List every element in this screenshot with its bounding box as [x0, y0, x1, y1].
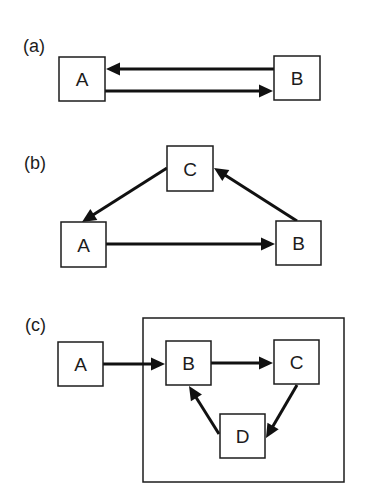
panel-c: (c) ABCD [25, 315, 344, 482]
node-b: B [276, 221, 321, 265]
edge-line [224, 174, 297, 221]
arrowhead-icon [259, 357, 273, 370]
edge-a-to-b [105, 85, 273, 98]
node-label: A [77, 235, 90, 256]
node-label: B [292, 233, 305, 254]
node-label: B [291, 68, 304, 89]
edge-b-to-c [214, 168, 297, 221]
edge-line [92, 168, 167, 216]
arrowhead-icon [261, 238, 275, 251]
node-label: A [74, 354, 87, 375]
edge-c-to-d [266, 385, 297, 438]
node-d: D [220, 414, 265, 458]
edge-line [195, 396, 219, 434]
node-b: B [274, 56, 320, 100]
edge-line [272, 385, 297, 428]
panel-label-b: (b) [24, 153, 46, 173]
node-a: A [58, 342, 103, 386]
arrowhead-icon [106, 63, 120, 76]
panel-label-a: (a) [23, 36, 45, 56]
edge-b-to-c [211, 357, 273, 370]
node-a: A [59, 57, 105, 101]
node-label: B [182, 353, 195, 374]
node-label: D [236, 426, 250, 447]
node-c: C [167, 146, 213, 191]
node-b: B [166, 341, 211, 385]
node-c: C [274, 340, 319, 384]
edge-b-to-a [106, 63, 274, 76]
arrowhead-icon [151, 358, 165, 371]
arrowhead-icon [214, 168, 229, 181]
edge-a-to-b [106, 238, 275, 251]
panel-b: (b) CAB [24, 146, 321, 267]
arrowhead-icon [259, 85, 273, 98]
edge-d-to-b [189, 386, 219, 434]
panel-a: (a) AB [23, 36, 320, 101]
edge-a-to-b [103, 358, 165, 371]
node-label: C [290, 352, 304, 373]
edge-c-to-a [82, 168, 167, 222]
diagram-canvas: (a) AB (b) CAB (c) ABCD [0, 0, 373, 496]
panel-label-c: (c) [25, 315, 46, 335]
node-a: A [61, 222, 106, 267]
node-label: A [76, 69, 89, 90]
node-label: C [183, 159, 197, 180]
